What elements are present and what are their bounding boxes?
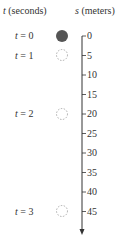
arrow-down-icon	[80, 229, 85, 235]
tick-label: 5	[87, 51, 92, 61]
ball-dashed-icon	[57, 206, 68, 217]
tick-label: 10	[87, 70, 97, 80]
tick-label: 15	[87, 90, 97, 100]
tick-label: 20	[87, 109, 97, 119]
motion-diagram	[0, 0, 126, 241]
ball-filled-icon	[56, 30, 68, 42]
tick-label: 25	[87, 129, 97, 139]
tick-label: 0	[87, 31, 92, 41]
axis-ticks	[82, 36, 86, 212]
ball-dashed-icon	[57, 50, 68, 61]
tick-label: 30	[87, 148, 97, 158]
ball-dashed-icon	[57, 109, 68, 120]
tick-label: 45	[87, 207, 97, 217]
tick-label: 40	[87, 187, 97, 197]
tick-label: 35	[87, 168, 97, 178]
